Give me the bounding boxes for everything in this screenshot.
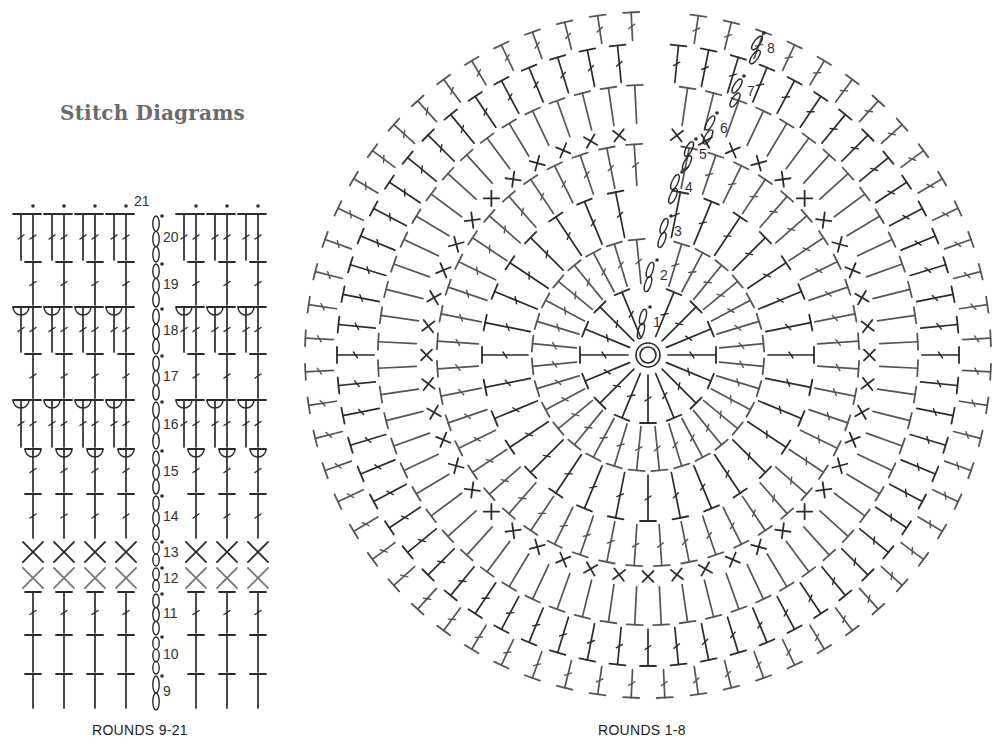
round-1-ring <box>580 289 716 423</box>
svg-text:8: 8 <box>767 40 775 56</box>
svg-text:6: 6 <box>720 120 728 136</box>
caption-rounds-1-8: ROUNDS 1-8 <box>598 722 686 738</box>
round-6-ring <box>378 85 918 625</box>
round-3-ring <box>482 191 814 521</box>
rounds-1-8-diagram: 12345678 <box>0 0 1004 720</box>
svg-text:7: 7 <box>747 83 755 99</box>
svg-text:1: 1 <box>653 314 661 330</box>
round-8-start: 8 <box>748 31 775 65</box>
svg-text:4: 4 <box>685 179 693 195</box>
svg-text:2: 2 <box>660 267 668 283</box>
round-7-ring <box>337 45 959 666</box>
caption-rounds-9-21: ROUNDS 9-21 <box>92 722 188 738</box>
round-8-ring <box>305 12 991 698</box>
round-4-start: 4 <box>667 170 693 204</box>
svg-text:3: 3 <box>674 223 682 239</box>
round-2-ring <box>532 239 764 471</box>
round-2-start: 2 <box>643 258 668 292</box>
svg-text:5: 5 <box>699 146 707 162</box>
